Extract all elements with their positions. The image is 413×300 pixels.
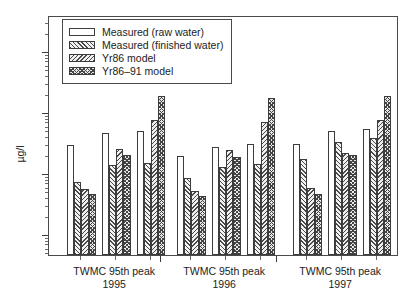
bar [219, 167, 226, 255]
legend-swatch-icon [69, 41, 95, 49]
x-axis-group-label: TWMC 95th peak1997 [280, 265, 400, 291]
legend-swatch-icon [69, 28, 95, 36]
bar [268, 98, 275, 255]
x-tick-subgroup [306, 256, 307, 260]
bar [335, 142, 342, 255]
bar [315, 194, 322, 255]
group-label-year: 1995 [54, 278, 174, 291]
bar [261, 122, 268, 255]
legend-item: Yr86–91 model [69, 65, 223, 77]
x-tick-subgroup [260, 256, 261, 260]
legend-label: Measured (finished water) [102, 40, 223, 50]
group-label-name: TWMC 95th peak [73, 265, 155, 277]
bar [370, 138, 377, 255]
bar [254, 164, 261, 255]
bar [158, 96, 165, 255]
bar [123, 155, 130, 255]
group-label-name: TWMC 95th peak [183, 265, 265, 277]
bar [89, 194, 96, 255]
x-tick-subgroup [115, 256, 116, 260]
bar [293, 144, 300, 255]
x-axis-group-label: TWMC 95th peak1996 [164, 265, 284, 291]
bar [233, 157, 240, 255]
legend-item: Measured (raw water) [69, 26, 223, 38]
chart-legend: Measured (raw water)Measured (finished w… [62, 19, 232, 84]
bar [74, 182, 81, 255]
bar [81, 189, 88, 255]
legend-label: Yr86 model [102, 53, 156, 63]
y-axis: 1001010.1 [0, 0, 48, 300]
x-tick-subgroup [150, 256, 151, 260]
x-tick-subgroup [225, 256, 226, 260]
bar [191, 191, 198, 255]
x-tick-subgroup [341, 256, 342, 260]
bar [307, 188, 314, 255]
legend-label: Yr86–91 model [102, 66, 173, 76]
chart-figure: µg/l 1001010.1 Measured (raw water)Measu… [0, 0, 413, 300]
x-tick-subgroup [80, 256, 81, 260]
bar [300, 159, 307, 255]
x-tick-subgroup [190, 256, 191, 260]
bar [151, 120, 158, 255]
bar [328, 131, 335, 255]
bar [116, 149, 123, 255]
bar [349, 155, 356, 255]
bar [102, 133, 109, 255]
x-axis-group-label: TWMC 95th peak1995 [54, 265, 174, 291]
bar [137, 131, 144, 255]
bar [184, 178, 191, 255]
x-tick-subgroup [376, 256, 377, 260]
bar [377, 120, 384, 255]
bar [67, 145, 74, 255]
bar [363, 129, 370, 255]
group-label-name: TWMC 95th peak [299, 265, 381, 277]
group-label-year: 1997 [280, 278, 400, 291]
bar [144, 163, 151, 255]
x-tick-major [276, 256, 277, 262]
x-tick-major [160, 256, 161, 262]
bar [342, 153, 349, 255]
bar [177, 156, 184, 255]
bar [247, 144, 254, 255]
group-label-year: 1996 [164, 278, 284, 291]
bar [226, 150, 233, 255]
bar [384, 96, 391, 255]
legend-swatch-icon [69, 54, 95, 62]
bar [109, 165, 116, 255]
legend-swatch-icon [69, 67, 95, 75]
legend-item: Measured (finished water) [69, 39, 223, 51]
bar [199, 196, 206, 255]
legend-label: Measured (raw water) [102, 27, 204, 37]
legend-item: Yr86 model [69, 52, 223, 64]
bar [212, 147, 219, 255]
